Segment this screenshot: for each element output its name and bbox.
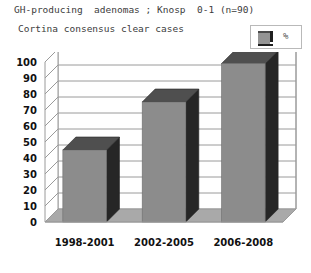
- y-axis-tick-label: 0: [30, 217, 37, 228]
- plot-area: 10090807060504030201001998-20012002-2005…: [0, 52, 311, 273]
- y-axis-tick-label: 60: [23, 121, 37, 132]
- chart-subtitle: Cortina consensus clear cases: [18, 23, 184, 34]
- legend-swatch-side-face: [270, 31, 273, 42]
- bar-chart-svg: 10090807060504030201001998-20012002-2005…: [0, 52, 311, 273]
- y-axis-tick-label: 40: [23, 153, 37, 164]
- legend-swatch-percent: [258, 31, 273, 44]
- y-axis-tick-label: 70: [23, 105, 37, 116]
- chart-container: GH-producing adenomas ; Knosp 0-1 (n=90)…: [0, 0, 311, 273]
- y-axis-tick-label: 100: [16, 57, 37, 68]
- legend-swatch-base-shadow: [258, 44, 273, 46]
- y-axis-tick-label: 30: [23, 169, 37, 180]
- y-axis-tick-label: 50: [23, 137, 37, 148]
- y-axis-tick-label: 80: [23, 89, 37, 100]
- bar-2006-2008[interactable]: [222, 52, 279, 222]
- chart-legend: %: [250, 25, 302, 49]
- x-axis-tick-label: 1998-2001: [55, 237, 115, 248]
- y-axis-tick-label: 20: [23, 185, 37, 196]
- bar-2002-2005[interactable]: [142, 89, 199, 222]
- bar-side-face: [186, 89, 199, 222]
- x-axis-tick-label: 2006-2008: [213, 237, 273, 248]
- legend-label-percent: %: [283, 31, 288, 41]
- legend-swatch-front-face: [258, 33, 270, 44]
- bar-side-face: [265, 52, 278, 222]
- y-axis-tick-label: 10: [23, 201, 37, 212]
- bar-front-face: [63, 150, 107, 222]
- bar-front-face: [142, 102, 186, 222]
- bar-front-face: [222, 64, 266, 222]
- y-axis-tick-label: 90: [23, 73, 37, 84]
- bar-side-face: [106, 137, 119, 222]
- bar-1998-2001[interactable]: [63, 137, 120, 222]
- x-axis-tick-label: 2002-2005: [134, 237, 194, 248]
- chart-title: GH-producing adenomas ; Knosp 0-1 (n=90): [14, 4, 254, 15]
